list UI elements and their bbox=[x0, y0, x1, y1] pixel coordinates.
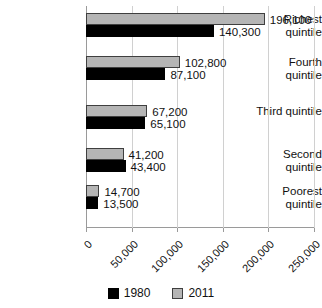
bar-value-label: 140,300 bbox=[219, 26, 261, 38]
bar-2011-group-0[interactable] bbox=[86, 13, 265, 25]
bar-1980-group-3[interactable] bbox=[86, 160, 126, 172]
grouped-bar-chart: Richest quintile Fourth quintile Third q… bbox=[0, 0, 322, 308]
legend-swatch-2011 bbox=[172, 288, 183, 299]
x-tick-mark bbox=[223, 228, 224, 232]
bar-value-label: 65,100 bbox=[150, 118, 185, 130]
legend-item-2011[interactable]: 2011 bbox=[172, 286, 214, 300]
legend-label-1980: 1980 bbox=[124, 286, 151, 300]
x-tick-mark bbox=[314, 228, 315, 232]
bar-1980-group-4[interactable] bbox=[86, 197, 98, 209]
gridline bbox=[268, 6, 269, 228]
x-tick-mark bbox=[268, 228, 269, 232]
bar-value-label: 102,800 bbox=[185, 57, 227, 69]
legend-swatch-1980 bbox=[108, 288, 119, 299]
bar-value-label: 67,200 bbox=[152, 106, 187, 118]
x-tick-mark bbox=[177, 228, 178, 232]
bar-1980-group-0[interactable] bbox=[86, 25, 214, 37]
bar-value-label: 13,500 bbox=[103, 198, 138, 210]
plot-area: 196,100140,300102,80087,10067,20065,1004… bbox=[86, 6, 314, 228]
bar-2011-group-2[interactable] bbox=[86, 105, 147, 117]
bar-value-label: 196,100 bbox=[270, 14, 312, 26]
x-tick-mark bbox=[86, 228, 87, 232]
gridline bbox=[223, 6, 224, 228]
bar-2011-group-3[interactable] bbox=[86, 148, 124, 160]
legend-item-1980[interactable]: 1980 bbox=[108, 286, 151, 300]
bar-value-label: 41,200 bbox=[129, 149, 164, 161]
bar-1980-group-1[interactable] bbox=[86, 68, 165, 80]
bar-2011-group-4[interactable] bbox=[86, 185, 99, 197]
bar-value-label: 87,100 bbox=[170, 69, 205, 81]
bar-2011-group-1[interactable] bbox=[86, 56, 180, 68]
x-axis-line bbox=[86, 227, 314, 228]
legend: 1980 2011 bbox=[0, 286, 322, 300]
x-tick-mark bbox=[132, 228, 133, 232]
bar-value-label: 14,700 bbox=[104, 186, 139, 198]
gridline bbox=[314, 6, 315, 228]
bar-value-label: 43,400 bbox=[131, 161, 166, 173]
bar-1980-group-2[interactable] bbox=[86, 117, 145, 129]
legend-label-2011: 2011 bbox=[188, 286, 214, 300]
